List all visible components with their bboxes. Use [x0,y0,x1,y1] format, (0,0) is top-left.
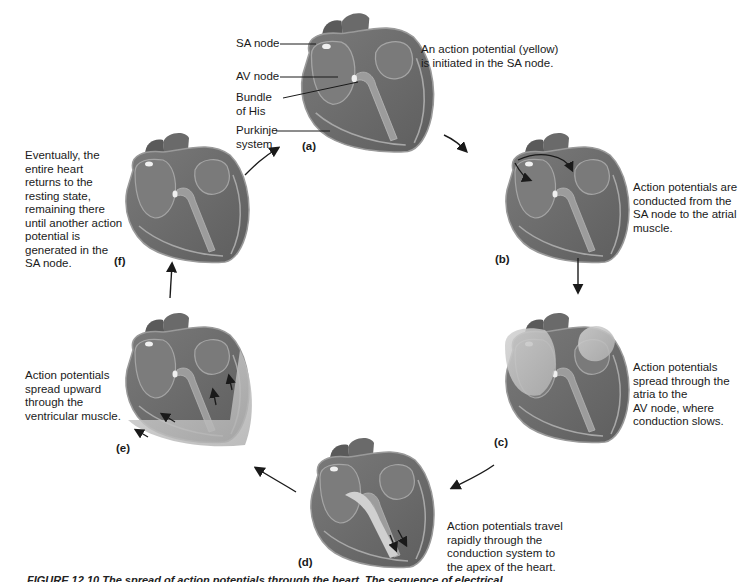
heart-b [506,133,629,262]
label-av-node: AV node [236,70,279,84]
heart-d [311,438,434,567]
diagram-graphics [0,0,743,582]
heart-conduction-diagram: SA node AV node Bundle of His Purkinje s… [0,0,743,582]
description-e: Action potentials spread upward through … [25,369,121,423]
arrow-a-to-b [444,135,466,151]
description-f: Eventually, the entire heart returns to … [25,149,122,271]
panel-label-e: (e) [116,442,130,454]
heart-e [126,313,252,446]
heart-c [505,313,629,442]
label-sa-node: SA node [236,37,279,51]
description-a: An action potential (yellow) is initiate… [421,43,558,70]
description-b: Action potentials are conducted from the… [633,181,737,235]
panel-label-a: (a) [302,140,316,152]
panel-label-b: (b) [495,253,510,265]
arrow-e-to-f [170,264,172,298]
label-purkinje-system: Purkinje system [236,124,278,151]
description-d: Action potentials travel rapidly through… [447,520,563,574]
panel-label-d: (d) [298,556,313,568]
arrow-f-to-a [245,148,278,175]
arrow-c-to-d [452,465,494,488]
panel-label-c: (c) [494,436,508,448]
description-c: Action potentials spread through the atr… [633,361,730,429]
label-bundle-of-his: Bundle of His [236,91,272,118]
arrow-d-to-e [256,468,296,492]
figure-caption: FIGURE 12.10 The spread of action potent… [27,573,503,582]
heart-f [126,133,249,262]
